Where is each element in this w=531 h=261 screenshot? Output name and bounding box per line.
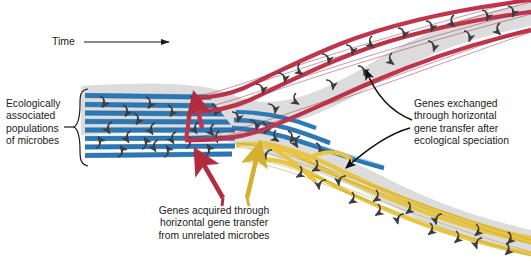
- genes-exchanged-label: Genes exchanged through horizontal gene …: [414, 98, 530, 148]
- genes-acquired-label: Genes acquired through horizontal gene t…: [126, 205, 302, 242]
- time-axis-label: Time: [52, 35, 75, 47]
- ecological-populations-label: Ecologically associated populations of m…: [6, 98, 80, 148]
- red-acquisition-arrow: [200, 158, 223, 198]
